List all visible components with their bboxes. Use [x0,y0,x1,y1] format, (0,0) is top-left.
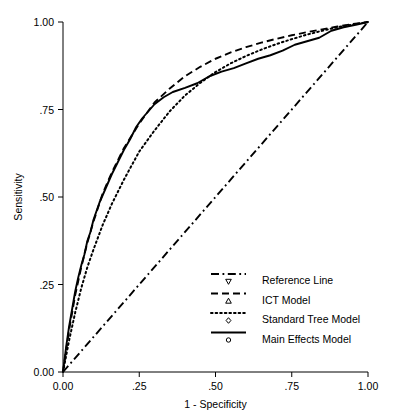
y-tick-label-0-25: .25 [39,279,54,291]
legend-item-ict-model[interactable]: ICT Model [211,294,310,306]
x-axis-ticks [63,372,368,377]
y-tick-label-0-50: .50 [39,191,54,203]
x-tick-label-0-75: .75 [284,380,299,392]
triangle-down-marker-icon [226,279,232,284]
x-tick-label-0-00: 0.00 [53,380,74,392]
y-axis-title: Sensitivity [12,173,24,221]
legend-item-reference-line[interactable]: Reference Line [211,274,333,286]
triangle-up-marker-icon [226,298,232,303]
roc-chart-figure: ▪▪▪▪▪▪▪▪▪▪▪▪▪▪▪ ▪▪▪ ▪▪▪▪▪▪▪▪▪ ▪▪▪▪ 1.00 … [0,0,403,417]
x-tick-label-1-00: 1.00 [358,380,379,392]
chart-legend: Reference LineICT ModelStandard Tree Mod… [211,274,360,345]
roc-plot-svg: 1.00 .75 .50 .25 0.00 0.00 .25 .50 .75 1… [0,0,403,417]
y-tick-label-0-00: 0.00 [34,366,55,378]
legend-item-main-effects-model[interactable]: Main Effects Model [211,333,351,345]
x-axis-title: 1 - Specificity [184,398,247,410]
circle-marker-icon [226,338,230,342]
legend-label: Main Effects Model [262,333,351,345]
y-axis-ticks [58,22,63,372]
x-tick-label-0-50: .50 [208,380,223,392]
legend-label: Standard Tree Model [262,313,360,325]
y-tick-label-1-00: 1.00 [34,16,55,28]
diamond-marker-icon [226,318,231,324]
y-tick-label-0-75: .75 [39,104,54,116]
x-tick-label-0-25: .25 [132,380,147,392]
legend-item-standard-tree-model[interactable]: Standard Tree Model [211,313,360,325]
legend-label: Reference Line [262,274,333,286]
legend-label: ICT Model [262,294,310,306]
